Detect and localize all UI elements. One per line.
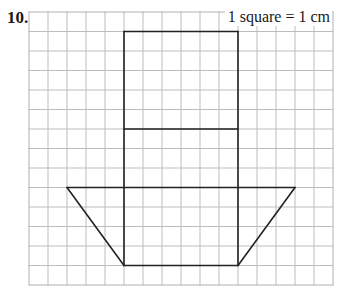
scale-label: 1 square = 1 cm bbox=[225, 9, 332, 26]
grid-diagram bbox=[0, 0, 343, 292]
square-grid bbox=[29, 12, 333, 285]
question-number: 10. bbox=[7, 9, 28, 26]
